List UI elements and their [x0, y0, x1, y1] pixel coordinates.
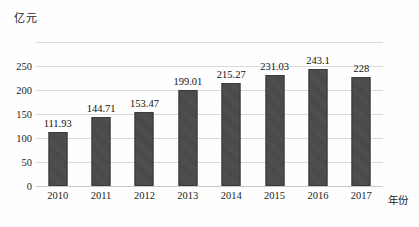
bar[interactable] — [352, 77, 371, 186]
y-axis-unit-label: 亿元 — [14, 9, 37, 25]
y-axis-tick-label: 0 — [0, 181, 32, 192]
x-axis-tick-label: 2012 — [134, 190, 155, 201]
bar[interactable] — [92, 117, 111, 186]
bar-value-label: 153.47 — [130, 98, 159, 109]
bar-value-label: 228 — [353, 63, 369, 74]
bar-slot: 243.1 — [296, 42, 339, 186]
gridline — [36, 186, 383, 187]
bar-slot: 111.93 — [36, 42, 79, 186]
x-axis-tick-label: 2015 — [264, 190, 285, 201]
bar-slot: 199.01 — [166, 42, 209, 186]
bars-layer: 111.93144.71153.47199.01215.27231.03243.… — [36, 42, 383, 186]
bar-value-label: 111.93 — [44, 118, 72, 129]
bar[interactable] — [135, 112, 154, 186]
bar-value-label: 199.01 — [173, 76, 202, 87]
x-axis-tick-label: 2017 — [351, 190, 372, 201]
bar[interactable] — [48, 132, 67, 186]
x-axis-tick-label: 2014 — [221, 190, 242, 201]
y-axis-tick-label: 150 — [0, 109, 32, 120]
y-axis-tick-label: 250 — [0, 61, 32, 72]
bar[interactable] — [265, 75, 284, 186]
bar[interactable] — [178, 90, 197, 186]
y-axis-tick-label: 200 — [0, 85, 32, 96]
bar-slot: 231.03 — [253, 42, 296, 186]
bar-value-label: 215.27 — [217, 69, 246, 80]
bar-slot: 228 — [340, 42, 383, 186]
x-axis-tick-label: 2010 — [47, 190, 68, 201]
bar-value-label: 231.03 — [260, 61, 289, 72]
bar-value-label: 144.71 — [87, 103, 116, 114]
bar[interactable] — [308, 69, 327, 186]
bar-slot: 215.27 — [210, 42, 253, 186]
x-axis-tick-labels: 20102011201220132014201520162017 — [36, 190, 383, 210]
y-axis-tick-label: 100 — [0, 133, 32, 144]
x-axis-tick-label: 2013 — [177, 190, 198, 201]
x-axis-tick-label: 2011 — [91, 190, 112, 201]
bar-value-label: 243.1 — [306, 55, 330, 66]
bar-slot: 153.47 — [123, 42, 166, 186]
bar[interactable] — [222, 83, 241, 186]
x-axis-title: 年份 — [388, 192, 408, 207]
y-axis-tick-label: 50 — [0, 157, 32, 168]
bar-chart: 亿元 050100150200250 111.93144.71153.47199… — [0, 0, 419, 227]
bar-slot: 144.71 — [79, 42, 122, 186]
x-axis-tick-label: 2016 — [307, 190, 328, 201]
